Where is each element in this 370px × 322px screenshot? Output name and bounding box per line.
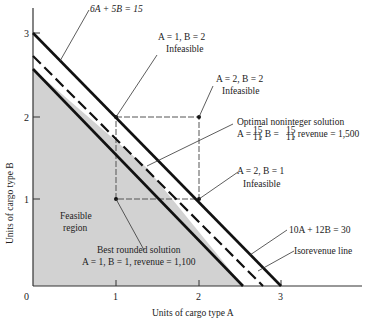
- leader-p21: [199, 172, 238, 199]
- y-tick-label-1: 1: [24, 194, 29, 205]
- x-axis-title: Units of cargo type A: [152, 308, 234, 318]
- label-p12-values: A = 1, B = 2: [158, 32, 205, 42]
- label-p12-status: Infeasible: [166, 44, 203, 54]
- leader-eq1: [60, 10, 89, 61]
- svg-text:, revenue = 1,500: , revenue = 1,500: [293, 129, 360, 139]
- label-p21-status: Infeasible: [243, 179, 280, 189]
- x-tick-label-1: 1: [113, 291, 118, 302]
- leader-opt: [147, 124, 233, 166]
- integer-programming-diagram: 0 1 2 3 1 2 3 Units of cargo type A Unit…: [0, 0, 370, 322]
- label-p21-values: A = 2, B = 1: [237, 166, 284, 176]
- label-eq1: 6A + 5B = 15: [90, 4, 143, 14]
- svg-text:A =: A =: [237, 129, 251, 139]
- label-p22-values: A = 2, B = 2: [216, 74, 263, 84]
- label-feasible-1: Feasible: [60, 211, 92, 221]
- label-opt-values: A = 15 11 , B = 15 11 , revenue = 1,500: [237, 125, 360, 142]
- leader-iso: [258, 251, 294, 271]
- label-eq2: 10A + 12B = 30: [289, 225, 351, 235]
- label-best-values: A = 1, B = 1, revenue = 1,100: [82, 257, 196, 267]
- label-feasible-2: region: [63, 223, 88, 233]
- y-axis-title: Units of cargo type B: [5, 162, 15, 244]
- x-tick-label-0: 0: [24, 291, 29, 302]
- x-tick-label-2: 2: [196, 291, 201, 302]
- svg-text:, B =: , B =: [260, 129, 279, 139]
- leader-p12: [116, 55, 157, 117]
- label-best-title: Best rounded solution: [97, 245, 181, 255]
- x-tick-label-3: 3: [278, 291, 283, 302]
- label-p22-status: Infeasible: [222, 86, 259, 96]
- y-tick-label-2: 2: [24, 112, 29, 123]
- leader-eq2: [250, 230, 287, 255]
- label-isorevenue: Isorevenue line: [294, 246, 352, 256]
- leader-p22: [199, 86, 213, 117]
- y-tick-label-3: 3: [24, 28, 29, 39]
